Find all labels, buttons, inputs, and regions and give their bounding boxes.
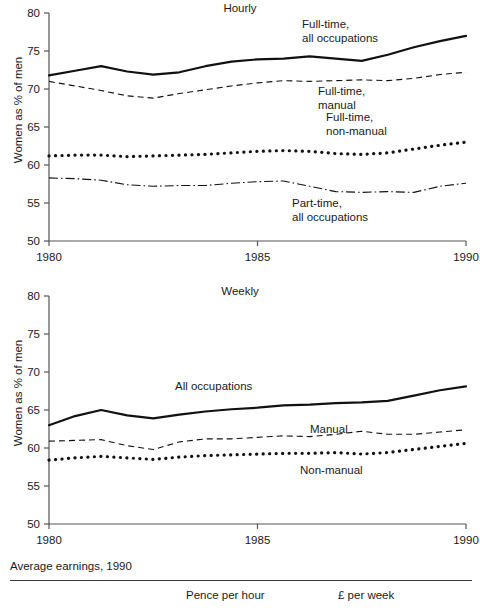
series-line-full-time-non-manual <box>49 142 466 156</box>
chart-panel-hourly: Hourly Women as % of men 505560657075801… <box>0 0 480 268</box>
svg-text:75: 75 <box>27 45 40 57</box>
svg-text:50: 50 <box>27 518 40 530</box>
svg-text:70: 70 <box>27 83 40 95</box>
svg-text:1990: 1990 <box>453 251 479 263</box>
series-label-manual: Manual <box>310 422 348 436</box>
svg-text:1985: 1985 <box>245 251 271 263</box>
footer-column-header-pence-per-hour: Pence per hour <box>186 589 265 601</box>
series-line-full-time-all-occupations <box>49 36 466 76</box>
chart-title-hourly: Hourly <box>0 2 480 14</box>
svg-text:65: 65 <box>27 121 40 133</box>
series-label-full-time-manual: Full-time, manual <box>318 84 365 112</box>
series-line-full-time-manual <box>49 72 466 98</box>
svg-text:70: 70 <box>27 366 40 378</box>
series-label-full-time-non-manual: Full-time, non-manual <box>326 110 387 138</box>
plot-area-weekly: 50556065707580198019851990 <box>0 283 480 551</box>
series-line-all-occupations <box>49 386 466 425</box>
svg-text:65: 65 <box>27 404 40 416</box>
series-line-manual <box>49 430 466 450</box>
svg-text:1980: 1980 <box>36 251 62 263</box>
series-line-part-time-all-occupations <box>49 178 466 192</box>
series-line-non-manual <box>49 443 466 460</box>
svg-text:1980: 1980 <box>36 534 62 546</box>
y-axis-label-weekly: Women as % of men <box>12 323 24 463</box>
y-axis-label-hourly: Women as % of men <box>12 40 24 180</box>
svg-text:60: 60 <box>27 159 40 171</box>
series-label-non-manual: Non-manual <box>300 463 363 477</box>
chart-title-weekly: Weekly <box>0 285 480 297</box>
svg-text:1985: 1985 <box>245 534 271 546</box>
series-label-full-time-all-occupations: Full-time, all occupations <box>302 17 378 45</box>
chart-panel-weekly: Weekly Women as % of men 505560657075801… <box>0 283 480 551</box>
svg-text:1990: 1990 <box>453 534 479 546</box>
svg-text:50: 50 <box>27 235 40 247</box>
svg-text:55: 55 <box>27 480 40 492</box>
svg-text:75: 75 <box>27 328 40 340</box>
series-label-part-time-all-occupations: Part-time, all occupations <box>292 196 368 224</box>
svg-text:55: 55 <box>27 197 40 209</box>
svg-text:60: 60 <box>27 442 40 454</box>
series-label-all-occupations: All occupations <box>175 379 252 393</box>
plot-area-hourly: 50556065707580198019851990 <box>0 0 480 268</box>
footer-column-header-pounds-per-week: £ per week <box>338 589 394 601</box>
footer-divider <box>10 580 472 581</box>
footer-table: Average earnings, 1990 Pence per hour £ … <box>0 556 480 615</box>
footer-title: Average earnings, 1990 <box>10 560 132 572</box>
